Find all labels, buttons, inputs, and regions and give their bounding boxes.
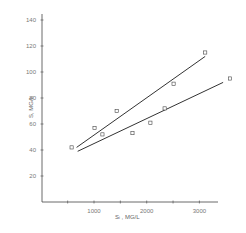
y-tick-label: 40 (29, 147, 36, 153)
x-tick-label: 2000 (140, 208, 154, 214)
x-tick-label: 3000 (193, 208, 207, 214)
y-tick-label: 140 (26, 17, 37, 23)
data-point-marker (93, 126, 96, 129)
axes (42, 14, 218, 202)
ticks (41, 20, 200, 204)
data-point-marker (115, 109, 118, 112)
x-tick-label: 1000 (87, 208, 101, 214)
data-point-marker (101, 133, 104, 136)
upper-fit-line (77, 56, 206, 147)
data-point-marker (172, 82, 175, 85)
y-axis-title: S, MG/L (28, 95, 34, 118)
data-point-marker (163, 107, 166, 110)
data-point-marker (70, 146, 73, 149)
fit-lines (77, 56, 224, 151)
tick-labels: 20406080100120140100020003000 (26, 17, 207, 214)
data-point-marker (149, 121, 152, 124)
y-tick-label: 20 (29, 173, 36, 179)
lower-fit-line (78, 82, 223, 151)
data-point-marker (204, 51, 207, 54)
y-tick-label: 60 (29, 121, 36, 127)
data-point-marker (131, 132, 134, 135)
data-points (70, 51, 232, 149)
y-tick-label: 100 (26, 69, 37, 75)
data-point-marker (228, 77, 231, 80)
x-axis-title: Sᵢ , MG/L (115, 214, 140, 220)
y-tick-label: 120 (26, 43, 37, 49)
scatter-chart: 20406080100120140100020003000 Sᵢ , MG/L … (0, 0, 246, 233)
